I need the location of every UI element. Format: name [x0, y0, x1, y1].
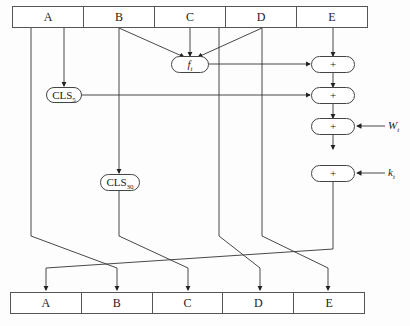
register-a: A: [11, 293, 82, 313]
register-b: B: [84, 7, 155, 27]
register-c: C: [155, 7, 226, 27]
k-subscript: t: [393, 173, 395, 181]
register-e: E: [294, 293, 364, 313]
register-a: A: [13, 7, 84, 27]
w-input-label: Wt: [388, 119, 399, 134]
cls30-node: CLS30: [100, 174, 140, 191]
cls5-subscript: 5: [72, 96, 76, 104]
register-d: D: [226, 7, 297, 27]
top-register: A B C D E: [12, 6, 368, 28]
function-f-node: ft: [171, 56, 209, 73]
f-subscript: t: [191, 65, 193, 73]
register-e: E: [297, 7, 367, 27]
cls30-subscript: 30: [127, 183, 134, 191]
w-label: W: [388, 119, 397, 131]
cls5-label: CLS: [52, 89, 72, 101]
register-c: C: [153, 293, 224, 313]
cls5-node: CLS5: [46, 87, 82, 103]
register-b: B: [82, 293, 153, 313]
add-node-4: +: [311, 165, 355, 182]
cls30-label: CLS: [106, 176, 126, 188]
k-input-label: kt: [388, 166, 395, 181]
bottom-register: A B C D E: [10, 292, 365, 314]
add-node-2: +: [311, 87, 355, 104]
w-subscript: t: [397, 126, 399, 134]
register-d: D: [223, 293, 294, 313]
add-node-3: +: [311, 118, 355, 135]
connection-lines: [0, 0, 410, 326]
add-node-1: +: [311, 56, 355, 73]
